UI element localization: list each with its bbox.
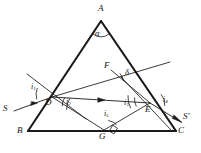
point-label-G: G bbox=[99, 132, 106, 141]
angle-label-i3-subscript: 3 bbox=[126, 102, 128, 107]
angle-label-delta: δ bbox=[125, 68, 129, 77]
vertex-label-C: C bbox=[178, 126, 184, 135]
diagram-canvas: A B C D E F G S S' α i1 i2 i3 i4 i5 δ bbox=[0, 0, 201, 153]
emergent-ray-arrowhead bbox=[173, 115, 183, 123]
vertex-label-A: A bbox=[98, 4, 104, 13]
angle-label-i2: i2 bbox=[66, 98, 71, 107]
ray-label-S-prime: S' bbox=[183, 112, 189, 121]
angle-arc-i5 bbox=[109, 121, 117, 125]
angle-label-alpha: α bbox=[95, 29, 99, 38]
ray-label-S: S bbox=[3, 104, 8, 113]
angle-label-i3: i3 bbox=[124, 99, 129, 108]
point-label-D: D bbox=[45, 98, 52, 107]
point-label-E: E bbox=[145, 105, 151, 114]
angle-label-i1: i1 bbox=[31, 83, 36, 92]
angle-label-i4: i4 bbox=[163, 96, 168, 105]
vertex-label-B: B bbox=[17, 126, 23, 135]
incident-ray-arrowhead bbox=[31, 102, 38, 106]
angle-label-i4-subscript: 4 bbox=[165, 99, 167, 104]
construction-line-EF bbox=[111, 70, 150, 103]
angle-label-i5: i5 bbox=[104, 110, 109, 119]
angle-label-i2-subscript: 2 bbox=[68, 101, 70, 106]
construction-line-DG bbox=[52, 97, 104, 130]
point-label-F: F bbox=[104, 61, 110, 70]
triangle-side-AC bbox=[101, 21, 176, 131]
angle-label-i1-subscript: 1 bbox=[33, 86, 35, 91]
angle-label-i5-subscript: 5 bbox=[106, 113, 108, 118]
internal-ray-arrowhead bbox=[98, 98, 105, 103]
angle-arc-i1 bbox=[36, 88, 37, 98]
triangle-side-AB bbox=[28, 21, 101, 131]
